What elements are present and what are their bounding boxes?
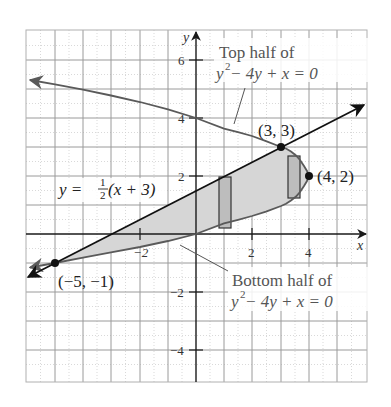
top-half-leader: [234, 88, 245, 124]
svg-text:− 4y + x = 0: − 4y + x = 0: [230, 64, 318, 83]
point-neg5-neg1: [51, 259, 59, 267]
svg-text:Bottom half of: Bottom half of: [232, 271, 332, 290]
bottom-half-label: Bottom half of y 2 − 4y + x = 0: [228, 267, 368, 311]
svg-text:y: y: [229, 292, 239, 311]
y-tick-label-neg4: −4: [170, 343, 184, 358]
point-3-3: [277, 143, 285, 151]
point-label-3-3: (3, 3): [258, 121, 295, 140]
svg-text:1: 1: [100, 176, 106, 188]
x-axis-label: x: [356, 238, 364, 253]
svg-text:(x + 3): (x + 3): [108, 180, 156, 199]
y-tick-label-6: 6: [178, 53, 185, 68]
region-between-curves-diagram: −2 2 4 6 4 2 −2 −4 x y (−5, −1) (3, 3) (…: [0, 0, 391, 407]
x-tick-label-2: 2: [248, 245, 255, 260]
point-4-2: [305, 172, 313, 180]
point-label-neg5-neg1: (−5, −1): [58, 272, 114, 291]
point-label-4-2: (4, 2): [317, 167, 354, 186]
svg-text:y: y: [214, 64, 224, 83]
svg-text:2: 2: [100, 189, 106, 201]
svg-text:y =: y =: [57, 180, 82, 199]
y-tick-label-neg2: −2: [170, 285, 184, 300]
top-half-label: Top half of y 2 − 4y + x = 0: [214, 38, 370, 83]
x-tick-label-4: 4: [305, 245, 312, 260]
svg-text:− 4y + x = 0: − 4y + x = 0: [245, 292, 333, 311]
line-equation-label: y = 1 2 (x + 3): [56, 176, 166, 202]
representative-rectangle-left: [219, 177, 231, 228]
y-axis-label: y: [181, 30, 190, 45]
y-tick-label-2: 2: [178, 169, 185, 184]
representative-rectangle-right: [288, 156, 300, 198]
